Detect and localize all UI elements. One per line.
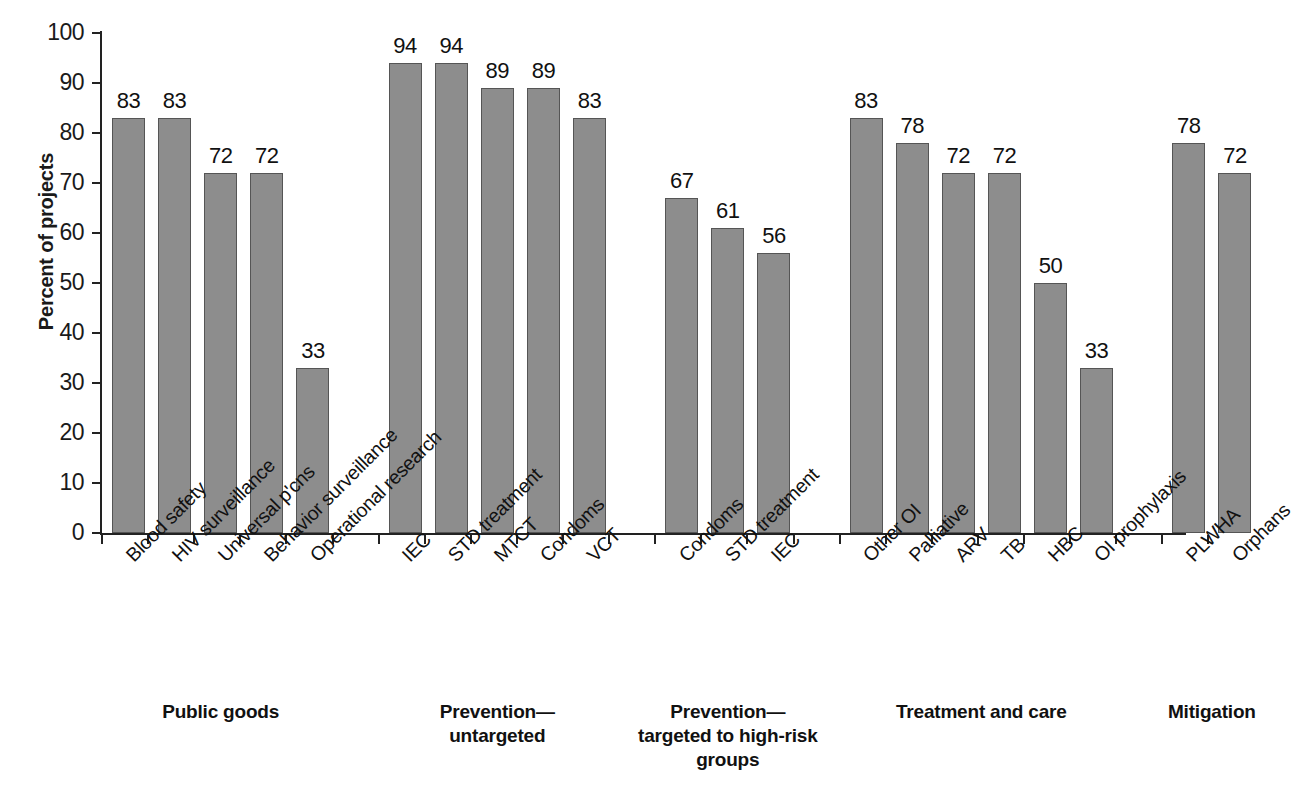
y-tick-label-60: 60 <box>24 221 84 244</box>
group-title-line: targeted to high-risk <box>613 724 843 748</box>
group-title: Public goods <box>106 700 336 724</box>
bar-value-label: 78 <box>1159 115 1219 137</box>
group-title-line: Treatment and care <box>866 700 1096 724</box>
y-tick-mark-90 <box>92 82 101 84</box>
group-title: Prevention—targeted to high-riskgroups <box>613 700 843 772</box>
bar-value-label: 83 <box>560 90 620 112</box>
y-tick-mark-10 <box>92 482 101 484</box>
y-tick-mark-100 <box>92 32 101 34</box>
bar <box>1218 173 1251 533</box>
y-tick-mark-60 <box>92 232 101 234</box>
y-tick-mark-0 <box>92 532 101 534</box>
bar-value-label: 83 <box>836 90 896 112</box>
group-title-line: Prevention— <box>613 700 843 724</box>
group-title: Treatment and care <box>866 700 1096 724</box>
y-axis-tick-labels: 1009080706050403020100 <box>22 0 84 797</box>
bar-value-label: 33 <box>283 340 343 362</box>
group-title-line: groups <box>613 748 843 772</box>
bar <box>573 118 606 533</box>
bar <box>988 173 1021 533</box>
y-tick-label-50: 50 <box>24 271 84 294</box>
bar <box>112 118 145 533</box>
bar <box>1080 368 1113 533</box>
y-tick-label-0: 0 <box>24 521 84 544</box>
x-tick-mark <box>839 535 841 544</box>
bar-value-label: 67 <box>652 170 712 192</box>
bar-value-label: 72 <box>237 145 297 167</box>
bar <box>896 143 929 533</box>
bar <box>158 118 191 533</box>
group-title-line: untargeted <box>382 724 612 748</box>
y-tick-mark-80 <box>92 132 101 134</box>
y-tick-label-100: 100 <box>24 21 84 44</box>
y-tick-mark-40 <box>92 332 101 334</box>
x-tick-mark <box>378 535 380 544</box>
bar <box>1034 283 1067 533</box>
group-title: Mitigation <box>1097 700 1295 724</box>
group-title-line: Prevention— <box>382 700 612 724</box>
y-tick-label-20: 20 <box>24 421 84 444</box>
y-tick-mark-50 <box>92 282 101 284</box>
y-tick-label-80: 80 <box>24 121 84 144</box>
y-tick-label-10: 10 <box>24 471 84 494</box>
bar-value-label: 78 <box>882 115 942 137</box>
bar-value-label: 72 <box>1205 145 1265 167</box>
x-tick-mark <box>654 535 656 544</box>
bar <box>665 198 698 533</box>
y-tick-label-90: 90 <box>24 71 84 94</box>
bar-value-label: 72 <box>974 145 1034 167</box>
bar <box>481 88 514 533</box>
bar-value-label: 56 <box>744 225 804 247</box>
bar <box>204 173 237 533</box>
bar-value-label: 94 <box>421 35 481 57</box>
bar-value-label: 50 <box>1021 255 1081 277</box>
y-tick-mark-70 <box>92 182 101 184</box>
bar-value-label: 33 <box>1067 340 1127 362</box>
bar-value-label: 89 <box>513 60 573 82</box>
bar <box>711 228 744 533</box>
bar-value-label: 83 <box>145 90 205 112</box>
y-tick-mark-30 <box>92 382 101 384</box>
bar-value-label: 61 <box>698 200 758 222</box>
y-tick-label-70: 70 <box>24 171 84 194</box>
group-title-line: Public goods <box>106 700 336 724</box>
bar <box>435 63 468 533</box>
bar <box>850 118 883 533</box>
y-tick-label-30: 30 <box>24 371 84 394</box>
y-tick-label-40: 40 <box>24 321 84 344</box>
group-title-line: Mitigation <box>1097 700 1295 724</box>
bar <box>942 173 975 533</box>
group-title: Prevention—untargeted <box>382 700 612 748</box>
x-tick-mark <box>101 535 103 544</box>
x-tick-mark <box>1161 535 1163 544</box>
y-tick-mark-20 <box>92 432 101 434</box>
